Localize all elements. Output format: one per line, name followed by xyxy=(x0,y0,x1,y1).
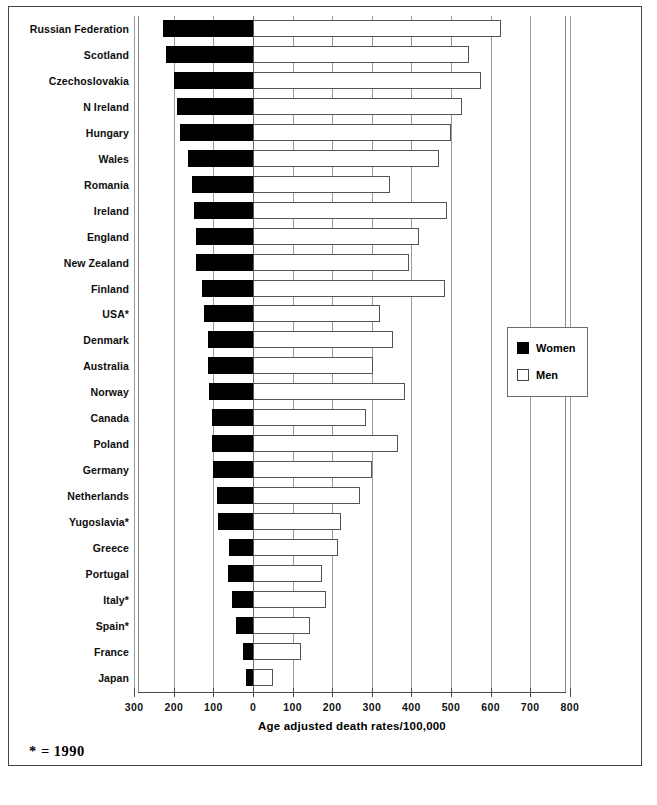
category-label: Germany xyxy=(9,457,129,483)
bar-men xyxy=(253,383,405,400)
category-label: Ireland xyxy=(9,198,129,224)
bar-row: Romania xyxy=(9,172,641,198)
bar-women xyxy=(229,539,253,556)
bar-men xyxy=(253,669,273,686)
x-tick xyxy=(293,688,294,697)
legend-label-women: Women xyxy=(536,341,576,355)
bar-men xyxy=(253,409,366,426)
bar-women xyxy=(202,280,253,297)
bar-women xyxy=(177,98,253,115)
bar-women xyxy=(204,305,253,322)
bar-women xyxy=(208,331,253,348)
bar-row: New Zealand xyxy=(9,250,641,276)
bar-men xyxy=(253,46,469,63)
x-tick xyxy=(530,688,531,697)
category-label: N Ireland xyxy=(9,94,129,120)
bar-men xyxy=(253,539,338,556)
category-label: Russian Federation xyxy=(9,16,129,42)
bar-women xyxy=(209,383,253,400)
bar-row: Ireland xyxy=(9,198,641,224)
x-tick-label: 600 xyxy=(469,701,513,713)
bar-men xyxy=(253,643,301,660)
category-label: Greece xyxy=(9,535,129,561)
bar-men xyxy=(253,435,398,452)
bar-row: USA* xyxy=(9,301,641,327)
x-tick xyxy=(174,688,175,697)
x-tick-label: 0 xyxy=(231,701,275,713)
category-label: Spain* xyxy=(9,613,129,639)
bar-row: Finland xyxy=(9,276,641,302)
figure-panel: Russian FederationScotlandCzechoslovakia… xyxy=(8,6,642,766)
x-tick xyxy=(411,688,412,697)
bar-men xyxy=(253,280,445,297)
bar-row: Hungary xyxy=(9,120,641,146)
category-label: Czechoslovakia xyxy=(9,68,129,94)
x-tick-label: 500 xyxy=(429,701,473,713)
category-label: Wales xyxy=(9,146,129,172)
x-tick xyxy=(570,688,571,697)
category-label: Romania xyxy=(9,172,129,198)
x-tick-label: 800 xyxy=(548,701,592,713)
bar-row: Yugoslavia* xyxy=(9,509,641,535)
bar-row: France xyxy=(9,639,641,665)
bar-women xyxy=(236,617,253,634)
bar-row: Canada xyxy=(9,405,641,431)
bar-row: Netherlands xyxy=(9,483,641,509)
bar-women xyxy=(194,202,253,219)
x-tick-label: 100 xyxy=(191,701,235,713)
bar-men xyxy=(253,228,419,245)
bar-row: Italy* xyxy=(9,587,641,613)
x-axis-line xyxy=(138,692,566,693)
legend-swatch-men-icon xyxy=(517,369,529,381)
bar-men xyxy=(253,357,373,374)
bar-women xyxy=(212,435,253,452)
bar-men xyxy=(253,487,360,504)
bar-men xyxy=(253,565,322,582)
bar-women xyxy=(212,409,253,426)
x-tick xyxy=(451,688,452,697)
bar-row: Scotland xyxy=(9,42,641,68)
bar-men xyxy=(253,150,439,167)
x-tick-label: 200 xyxy=(152,701,196,713)
category-label: Portugal xyxy=(9,561,129,587)
category-label: Canada xyxy=(9,405,129,431)
footnote: * = 1990 xyxy=(29,743,85,760)
legend-box: Women Men xyxy=(507,327,588,397)
bar-men xyxy=(253,331,393,348)
category-label: Finland xyxy=(9,276,129,302)
category-label: Poland xyxy=(9,431,129,457)
x-tick-label: 300 xyxy=(112,701,156,713)
category-label: Yugoslavia* xyxy=(9,509,129,535)
bar-men xyxy=(253,202,447,219)
bar-women xyxy=(174,72,253,89)
x-tick xyxy=(213,688,214,697)
bar-women xyxy=(218,513,253,530)
x-axis-label: Age adjusted death rates/100,000 xyxy=(138,720,566,732)
bar-row: Wales xyxy=(9,146,641,172)
legend-label-men: Men xyxy=(536,368,558,382)
bar-women xyxy=(192,176,253,193)
bar-women xyxy=(217,487,253,504)
bar-women xyxy=(243,643,253,660)
category-label: Norway xyxy=(9,379,129,405)
bar-men xyxy=(253,124,451,141)
bar-women xyxy=(196,254,253,271)
category-label: New Zealand xyxy=(9,250,129,276)
bar-row: N Ireland xyxy=(9,94,641,120)
bar-row: Spain* xyxy=(9,613,641,639)
bar-women xyxy=(166,46,253,63)
x-tick xyxy=(372,688,373,697)
category-label: Denmark xyxy=(9,327,129,353)
category-label: Japan xyxy=(9,665,129,691)
bar-women xyxy=(228,565,253,582)
bar-row: Greece xyxy=(9,535,641,561)
x-tick-label: 400 xyxy=(389,701,433,713)
bar-row: Czechoslovakia xyxy=(9,68,641,94)
bar-men xyxy=(253,513,341,530)
bar-women xyxy=(213,461,253,478)
bar-women xyxy=(163,20,253,37)
category-label: Australia xyxy=(9,353,129,379)
bar-men xyxy=(253,98,462,115)
x-tick xyxy=(332,688,333,697)
bar-women xyxy=(196,228,253,245)
